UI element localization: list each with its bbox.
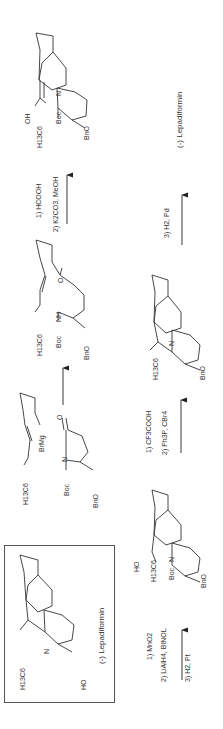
label-bno: BnO <box>200 574 207 588</box>
label-oh: OH <box>24 114 31 125</box>
label-boc: Boc <box>55 336 62 348</box>
label-boc: Boc <box>63 484 70 496</box>
reagent-ph3p: 2) Ph3P, CBr4 <box>161 411 168 455</box>
label-ho: HO <box>80 680 87 691</box>
structure-lactam <box>62 418 93 470</box>
reagent-k2co3: 2) K2CO3, MeOH <box>52 177 59 232</box>
reagent-hcooh: 1) HCOOH <box>35 184 42 218</box>
product-lepadiformin-label: (-) Lepadiformin <box>176 92 184 148</box>
label-h13c6: H13C6 <box>152 358 159 380</box>
label-h13c6: H13C6 <box>22 483 29 505</box>
label-boc: Boc <box>55 112 62 124</box>
structure-secondary-alcohol <box>152 490 200 582</box>
target-lepadiformin-label: (-) Lepadiformin <box>98 608 106 664</box>
label-n: N <box>61 457 68 462</box>
label-h13c6: H13C6 <box>36 126 43 148</box>
reagent-lialh4: 2) LiAlH4, BINOL <box>160 628 167 682</box>
label-o: O <box>56 415 63 420</box>
label-n: N <box>55 91 62 96</box>
label-boc: Boc <box>168 568 175 580</box>
label-h13c6: H13C6 <box>150 560 157 582</box>
label-bno: BnO <box>199 366 206 380</box>
label-n: N <box>168 557 175 562</box>
reagent-h2pd: 3) H2, Pd <box>163 208 170 238</box>
label-ho: HO <box>133 562 140 573</box>
reagent-mno2: 1) MnO2 <box>146 633 153 660</box>
label-bno: BnO <box>83 346 90 360</box>
label-brmg: BrMg <box>38 435 45 452</box>
label-n: N <box>43 649 50 654</box>
label-n: N <box>168 341 175 346</box>
structure-grignard <box>20 393 40 465</box>
structure-tricycle-bno <box>150 275 200 370</box>
label-nh: NH <box>55 312 62 322</box>
label-bno: BnO <box>92 494 99 508</box>
label-h13c6: H13C6 <box>19 668 26 690</box>
label-h13c6: H13C6 <box>36 334 43 356</box>
label-bno: BnO <box>83 126 90 140</box>
reagent-cf3cooh: 1) CF3COOH <box>145 411 152 453</box>
reagent-h2pt: 3) H2, Pt <box>184 654 191 682</box>
label-o: O <box>57 278 64 283</box>
